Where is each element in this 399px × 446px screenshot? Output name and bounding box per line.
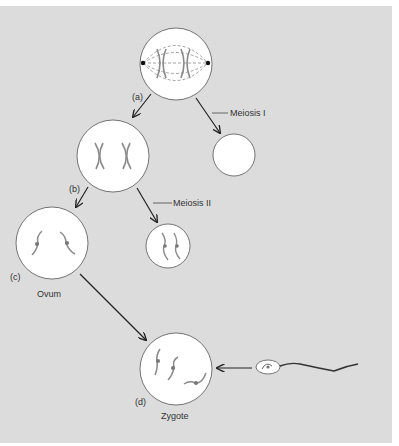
label-a: (a) xyxy=(132,92,143,102)
label-meiosis-2: Meiosis II xyxy=(173,198,211,208)
label-c: (c) xyxy=(10,272,21,282)
arrow-meiosis-2 xyxy=(137,188,157,222)
label-d: (d) xyxy=(135,397,146,407)
first-polar-body xyxy=(213,134,255,176)
label-ovum: Ovum xyxy=(37,289,61,299)
oogenesis-diagram xyxy=(0,0,399,446)
cell-b-secondary-oocyte xyxy=(77,120,149,192)
second-polar-body xyxy=(146,224,190,268)
label-zygote: Zygote xyxy=(161,411,189,421)
cell-c-ovum xyxy=(16,207,88,279)
arrow-meiosis-1 xyxy=(196,98,220,133)
sperm-icon xyxy=(256,360,358,374)
label-meiosis-1: Meiosis I xyxy=(230,108,266,118)
spindle-pole-icon xyxy=(206,61,210,65)
label-b: (b) xyxy=(69,184,80,194)
spindle-pole-icon xyxy=(141,61,145,65)
cell-d-zygote xyxy=(140,333,212,405)
arrow-ovum-to-zygote xyxy=(80,274,146,340)
cell-a-spindle xyxy=(140,28,212,100)
